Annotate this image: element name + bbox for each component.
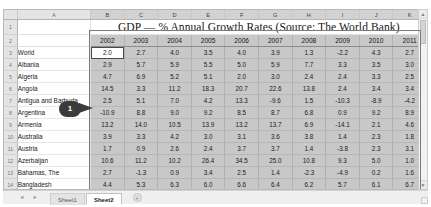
column-header-g[interactable]: G (259, 10, 293, 20)
row-header-13[interactable]: 13 (4, 167, 17, 179)
cell-c8[interactable]: 8.8 (124, 107, 158, 119)
cell-e12[interactable]: 26.4 (191, 155, 225, 167)
cell-b3[interactable]: 2.0 (91, 47, 125, 59)
cell-f10[interactable]: 3.1 (225, 131, 259, 143)
resize-handle[interactable] (421, 197, 428, 204)
cell-g14[interactable]: 6.4 (259, 179, 293, 191)
cell-e6[interactable]: 18.3 (191, 83, 225, 95)
year-header-2010[interactable]: 2010 (359, 35, 393, 47)
cell-h6[interactable]: 13.8 (292, 83, 326, 95)
cell-i4[interactable]: 3.3 (326, 59, 360, 71)
cell-i13[interactable]: -4.9 (326, 167, 360, 179)
table-row[interactable]: 4Albania2.95.75.95.55.05.97.73.33.53.0 (4, 59, 427, 71)
cell-e11[interactable]: 2.4 (191, 143, 225, 155)
cell-g13[interactable]: 1.4 (259, 167, 293, 179)
cell-b4[interactable]: 2.9 (91, 59, 125, 71)
country-label-cell[interactable]: Angola (17, 83, 90, 95)
table-row[interactable]: 3World2.02.74.03.54.03.91.3-2.24.32.7 (4, 47, 427, 59)
country-label-cell[interactable]: Bahamas, The (17, 167, 90, 179)
cell-e10[interactable]: 3.0 (191, 131, 225, 143)
cell-h4[interactable]: 7.7 (292, 59, 326, 71)
cell-f3[interactable]: 4.0 (225, 47, 259, 59)
cell-c7[interactable]: 5.1 (124, 95, 158, 107)
cell-i6[interactable]: 2.4 (326, 83, 360, 95)
cell-h5[interactable]: 2.4 (292, 71, 326, 83)
cell-f14[interactable]: 6.6 (225, 179, 259, 191)
cell-i12[interactable]: 9.3 (326, 155, 360, 167)
cell-i8[interactable]: 0.9 (326, 107, 360, 119)
cell-d11[interactable]: 2.6 (158, 143, 192, 155)
cell-a1[interactable] (17, 20, 90, 35)
cell-e9[interactable]: 13.9 (191, 119, 225, 131)
country-label-cell[interactable]: Armenia (17, 119, 90, 131)
sheet-tabs[interactable]: Sheet1 Sheet2 (50, 191, 123, 205)
table-row[interactable]: 10Australia3.93.34.23.03.13.63.81.42.31.… (4, 131, 427, 143)
cell-j12[interactable]: 5.0 (359, 155, 393, 167)
cell-d8[interactable]: 9.0 (158, 107, 192, 119)
cell-g6[interactable]: 22.6 (259, 83, 293, 95)
cell-h7[interactable]: 1.5 (292, 95, 326, 107)
year-header-2006[interactable]: 2006 (225, 35, 259, 47)
row-1[interactable]: 1 GDP — % Annual Growth Rates (Source: T… (4, 20, 427, 35)
cell-f4[interactable]: 5.0 (225, 59, 259, 71)
cell-i14[interactable]: 5.7 (326, 179, 360, 191)
country-label-cell[interactable]: Albania (17, 59, 90, 71)
cell-i11[interactable]: -3.8 (326, 143, 360, 155)
year-header-2003[interactable]: 2003 (124, 35, 158, 47)
cell-e5[interactable]: 5.1 (191, 71, 225, 83)
column-header-i[interactable]: I (326, 10, 360, 20)
table-row[interactable]: 11Austria1.70.92.62.43.73.71.4-3.82.33.1 (4, 143, 427, 155)
cell-d3[interactable]: 4.0 (158, 47, 192, 59)
cell-f6[interactable]: 20.7 (225, 83, 259, 95)
column-header-j[interactable]: J (359, 10, 393, 20)
cell-j8[interactable]: 9.2 (359, 107, 393, 119)
column-header-d[interactable]: D (158, 10, 192, 20)
row-header-11[interactable]: 11 (4, 143, 17, 155)
sheet-tab-sheet1[interactable]: Sheet1 (50, 193, 85, 205)
year-header-2005[interactable]: 2005 (191, 35, 225, 47)
cell-b6[interactable]: 14.5 (91, 83, 125, 95)
scrollbar-thumb[interactable] (420, 20, 426, 44)
cell-g4[interactable]: 5.9 (259, 59, 293, 71)
cell-h12[interactable]: 10.8 (292, 155, 326, 167)
cell-f5[interactable]: 2.0 (225, 71, 259, 83)
cell-j3[interactable]: 4.3 (359, 47, 393, 59)
cell-j14[interactable]: 6.1 (359, 179, 393, 191)
cell-g3[interactable]: 3.9 (259, 47, 293, 59)
cell-h13[interactable]: -2.3 (292, 167, 326, 179)
cell-c11[interactable]: 0.9 (124, 143, 158, 155)
cell-f7[interactable]: 13.3 (225, 95, 259, 107)
cell-b8[interactable]: -10.9 (91, 107, 125, 119)
cell-b9[interactable]: 13.2 (91, 119, 125, 131)
cell-j9[interactable]: 2.1 (359, 119, 393, 131)
column-header-f[interactable]: F (225, 10, 259, 20)
table-row[interactable]: 6Angola14.53.311.218.320.722.613.82.43.4… (4, 83, 427, 95)
cell-d4[interactable]: 5.9 (158, 59, 192, 71)
year-header-2004[interactable]: 2004 (158, 35, 192, 47)
cell-f9[interactable]: 13.2 (225, 119, 259, 131)
row-header-8[interactable]: 8 (4, 107, 17, 119)
cell-j5[interactable]: 3.3 (359, 71, 393, 83)
row-header-10[interactable]: 10 (4, 131, 17, 143)
cell-d13[interactable]: 0.9 (158, 167, 192, 179)
add-sheet-icon[interactable]: + (133, 193, 142, 202)
table-row[interactable]: 9Armenia13.214.010.513.913.213.76.9-14.1… (4, 119, 427, 131)
country-label-cell[interactable]: Algeria (17, 71, 90, 83)
cell-e8[interactable]: 9.2 (191, 107, 225, 119)
cell-h3[interactable]: 1.3 (292, 47, 326, 59)
cell-g7[interactable]: -9.6 (259, 95, 293, 107)
cell-b13[interactable]: 2.7 (91, 167, 125, 179)
row-header-5[interactable]: 5 (4, 71, 17, 83)
sheet-nav-buttons[interactable]: ◄ ► (19, 195, 38, 201)
nav-first-icon[interactable]: ◄ (19, 195, 24, 201)
cell-d7[interactable]: 7.0 (158, 95, 192, 107)
table-row[interactable]: 5Algeria4.76.95.25.12.03.02.42.43.32.5 (4, 71, 427, 83)
sheet-grid-area[interactable]: A B C D E F G H I J K 1 GDP — % Annual G… (3, 9, 428, 190)
cell-e14[interactable]: 6.0 (191, 179, 225, 191)
cell-g5[interactable]: 3.0 (259, 71, 293, 83)
cell-f13[interactable]: 2.5 (225, 167, 259, 179)
vertical-scrollbar[interactable]: ▲ ▼ (418, 9, 428, 190)
table-row[interactable]: 13Bahamas, The2.7-1.30.93.42.51.4-2.3-4.… (4, 167, 427, 179)
cell-c6[interactable]: 3.3 (124, 83, 158, 95)
column-header-row[interactable]: A B C D E F G H I J K (4, 10, 427, 20)
